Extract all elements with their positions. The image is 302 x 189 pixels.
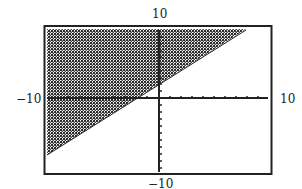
y-min-label: −10 xyxy=(148,178,173,189)
x-min-label: −10 xyxy=(16,93,41,105)
inequality-graph xyxy=(0,0,302,189)
y-max-label: 10 xyxy=(152,8,167,20)
x-max-label: 10 xyxy=(280,93,295,105)
